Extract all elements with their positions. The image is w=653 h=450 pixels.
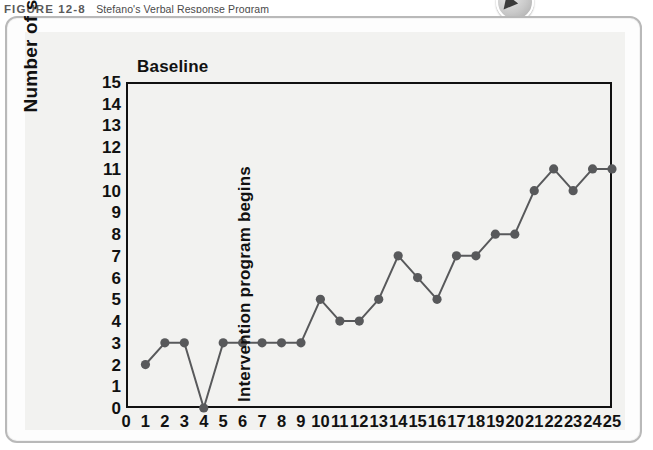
x-tick-label: 11 (331, 413, 348, 430)
figure-card: Number of single words 01234567891011121… (5, 16, 642, 443)
x-tick-label: 6 (238, 413, 247, 430)
y-tick-label: 14 (95, 96, 121, 113)
series-line (145, 169, 612, 408)
y-axis-title: Number of single words (20, 0, 42, 127)
data-point (141, 360, 150, 369)
y-tick-label: 8 (95, 226, 121, 243)
data-point (549, 164, 558, 173)
x-tick-label: 3 (180, 413, 189, 430)
baseline-phase-label: Baseline (137, 57, 209, 77)
x-tick-label: 7 (257, 413, 266, 430)
data-point (569, 186, 578, 195)
data-point (452, 251, 461, 260)
data-point (296, 338, 305, 347)
x-tick-label: 0 (121, 413, 130, 430)
x-tick-label: 16 (428, 413, 446, 430)
x-axis-ticks: 0123456789101112131415161718192021222324… (126, 413, 612, 439)
data-series (126, 82, 612, 408)
figure-caption: FIGURE 12-8 Stefano's Verbal Response Pr… (4, 0, 269, 13)
data-point (374, 295, 383, 304)
x-tick-label: 24 (583, 413, 601, 430)
data-point (335, 316, 344, 325)
x-tick-label: 5 (219, 413, 228, 430)
x-tick-label: 4 (199, 413, 208, 430)
y-tick-label: 11 (95, 161, 121, 178)
y-tick-label: 5 (95, 291, 121, 308)
data-point (510, 230, 519, 239)
play-triangle-glyph (504, 0, 520, 12)
x-tick-label: 21 (525, 413, 543, 430)
data-point (277, 338, 286, 347)
x-tick-label: 15 (408, 413, 426, 430)
x-tick-label: 10 (311, 413, 329, 430)
figure-title: Stefano's Verbal Response Program (96, 3, 269, 13)
y-tick-label: 4 (95, 313, 121, 330)
y-tick-label: 13 (95, 117, 121, 134)
data-point (588, 164, 597, 173)
data-point (530, 186, 539, 195)
y-tick-label: 10 (95, 183, 121, 200)
x-tick-label: 1 (141, 413, 150, 430)
y-tick-label: 1 (95, 378, 121, 395)
data-point (413, 273, 422, 282)
data-point (471, 251, 480, 260)
data-point (491, 230, 500, 239)
y-axis-ticks: 0123456789101112131415 (77, 32, 121, 430)
y-tick-label: 9 (95, 204, 121, 221)
x-tick-label: 25 (603, 413, 621, 430)
data-point (257, 338, 266, 347)
x-tick-label: 23 (564, 413, 582, 430)
x-tick-label: 14 (389, 413, 407, 430)
x-tick-label: 9 (296, 413, 305, 430)
data-point (394, 251, 403, 260)
x-tick-label: 13 (370, 413, 388, 430)
x-tick-label: 20 (506, 413, 524, 430)
y-tick-label: 15 (95, 74, 121, 91)
data-point (180, 338, 189, 347)
x-tick-label: 19 (486, 413, 504, 430)
x-tick-label: 8 (277, 413, 286, 430)
chart-panel: Number of single words 01234567891011121… (25, 32, 625, 430)
y-tick-label: 6 (95, 270, 121, 287)
y-tick-label: 12 (95, 139, 121, 156)
y-tick-label: 7 (95, 248, 121, 265)
data-point (355, 316, 364, 325)
x-tick-label: 17 (447, 413, 465, 430)
figure-number: FIGURE 12-8 (4, 3, 86, 13)
data-point (160, 338, 169, 347)
x-tick-label: 18 (467, 413, 485, 430)
y-tick-label: 0 (95, 400, 121, 417)
x-tick-label: 2 (160, 413, 169, 430)
x-tick-label: 12 (350, 413, 368, 430)
intervention-phase-label: Intervention program begins (235, 166, 255, 402)
data-point (219, 338, 228, 347)
data-point (607, 164, 616, 173)
y-tick-label: 2 (95, 357, 121, 374)
x-tick-label: 22 (544, 413, 562, 430)
y-tick-label: 3 (95, 335, 121, 352)
data-point (316, 295, 325, 304)
data-point (432, 295, 441, 304)
